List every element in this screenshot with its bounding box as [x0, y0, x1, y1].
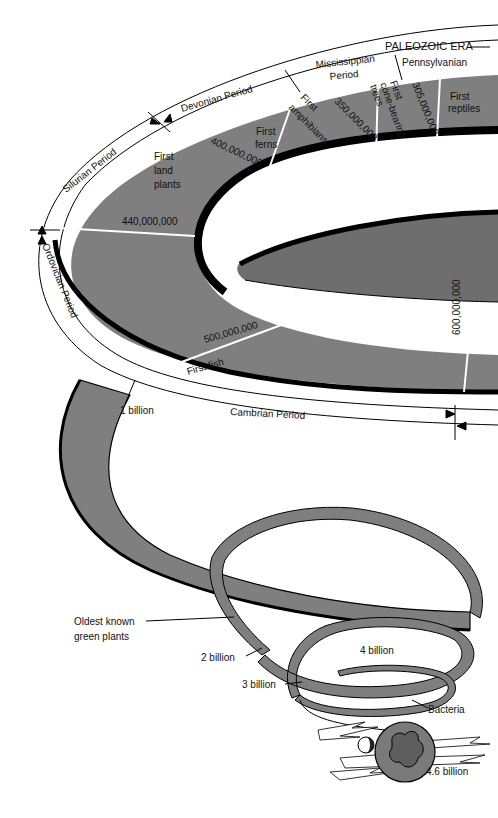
event-bacteria: Bacteria	[428, 704, 465, 715]
event-first-land-plants-3: plants	[154, 179, 181, 190]
date-440m: 440,000,000	[122, 216, 178, 227]
period-silurian: Silurian Period	[60, 146, 118, 195]
date-2-billion: 2 billion	[201, 652, 235, 663]
event-first-reptiles-2: reptiles	[448, 103, 480, 114]
date-4-billion: 4 billion	[360, 645, 394, 656]
event-first-land-plants-2: land	[154, 165, 173, 176]
date-600m: 600,000,000	[451, 279, 462, 335]
main-spiral	[39, 25, 498, 425]
date-3-billion: 3 billion	[242, 679, 276, 690]
lower-spiral	[60, 380, 482, 730]
event-oldest-green-plants-1: Oldest known	[74, 616, 135, 627]
period-pennsylvanian: Pennsylvanian	[402, 57, 467, 68]
event-oldest-green-plants-2: green plants	[74, 631, 129, 642]
spiral-loop-3-billion	[258, 617, 474, 698]
period-devonian: Devonian Period	[180, 83, 254, 114]
event-first-land-plants-1: First	[154, 151, 174, 162]
event-first-ferns-2: ferns	[255, 139, 277, 150]
date-1-billion: 1 billion	[120, 405, 154, 416]
geologic-time-spiral-diagram: PALEOZOIC ERA Pennsylvanian Mississippia…	[0, 0, 498, 818]
period-cambrian: Cambrian Period	[230, 406, 306, 421]
period-mississippian: Mississippian	[315, 53, 375, 70]
event-first-reptiles-1: First	[450, 91, 470, 102]
event-first-ferns-1: First	[256, 126, 276, 137]
date-4-6-billion: 4.6 billion	[426, 766, 468, 777]
era-label: PALEOZOIC ERA	[385, 40, 473, 52]
period-mississippian-2: Period	[329, 68, 359, 82]
